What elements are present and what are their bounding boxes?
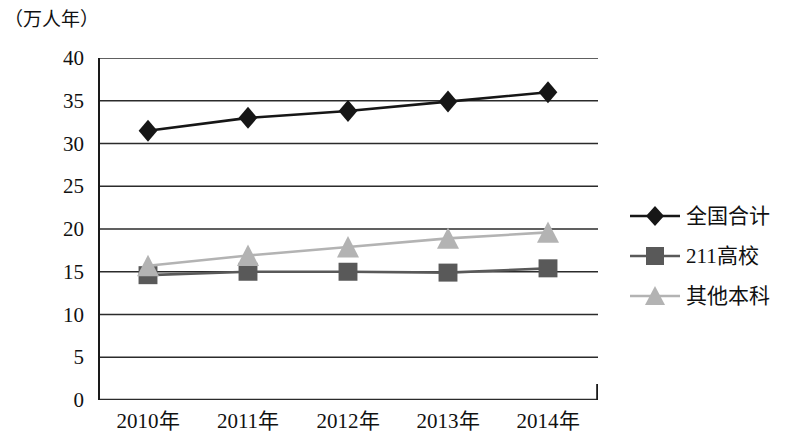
y-axis-tick-label: 0 bbox=[40, 390, 84, 411]
y-axis-tick-label: 5 bbox=[40, 347, 84, 368]
legend-item: 全国合计 bbox=[630, 196, 787, 236]
legend-marker-triangle-icon bbox=[630, 284, 680, 308]
x-axis-tick-label: 2011年 bbox=[217, 406, 279, 436]
legend-item-label: 其他本科 bbox=[686, 284, 770, 308]
data-point-marker bbox=[239, 107, 258, 129]
x-axis-tick-label: 2014年 bbox=[517, 406, 580, 436]
legend-marker-diamond-icon bbox=[630, 204, 680, 228]
data-point-marker bbox=[539, 81, 558, 103]
legend-marker-square-icon bbox=[630, 244, 680, 268]
y-axis-unit-label: （万人年） bbox=[4, 8, 99, 32]
series-layer bbox=[98, 58, 598, 400]
legend-item-label: 全国合计 bbox=[686, 204, 770, 228]
y-axis-tick-label: 30 bbox=[40, 133, 84, 154]
y-axis-tick-label: 10 bbox=[40, 304, 84, 325]
line-chart: （万人年） 0510152025303540 2010年2011年2012年20… bbox=[0, 0, 787, 446]
y-axis-tick-label: 20 bbox=[40, 219, 84, 240]
x-axis-tick-label: 2012年 bbox=[317, 406, 380, 436]
y-axis-tick-labels: 0510152025303540 bbox=[36, 58, 84, 400]
data-point-marker bbox=[539, 259, 558, 277]
y-axis-tick-label: 25 bbox=[40, 176, 84, 197]
data-point-marker bbox=[339, 263, 358, 281]
x-axis-tick-label: 2010年 bbox=[117, 406, 180, 436]
legend-item-label: 211高校 bbox=[686, 244, 759, 268]
y-axis-tick-label: 40 bbox=[40, 48, 84, 69]
data-point-marker bbox=[439, 91, 458, 113]
x-axis-tick-labels: 2010年2011年2012年2013年2014年 bbox=[98, 406, 598, 446]
data-point-marker bbox=[339, 100, 358, 122]
data-point-marker bbox=[139, 120, 158, 142]
plot-area bbox=[98, 58, 598, 400]
x-axis-tick-label: 2013年 bbox=[417, 406, 480, 436]
chart-legend: 全国合计211高校其他本科 bbox=[630, 196, 787, 316]
legend-item: 211高校 bbox=[630, 236, 787, 276]
y-axis-tick-label: 15 bbox=[40, 261, 84, 282]
data-point-marker bbox=[439, 264, 458, 282]
y-axis-tick-label: 35 bbox=[40, 90, 84, 111]
legend-item: 其他本科 bbox=[630, 276, 787, 316]
